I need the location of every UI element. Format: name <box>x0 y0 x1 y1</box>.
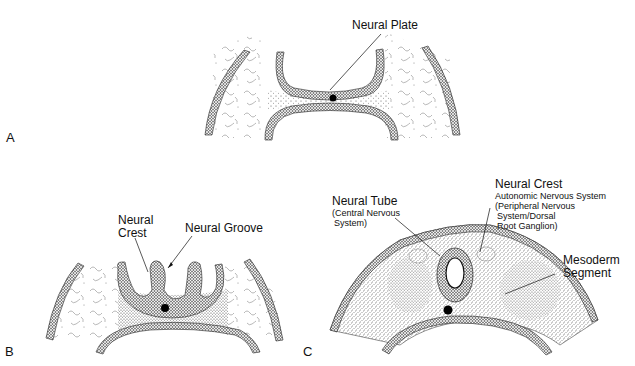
panel-c-drawing <box>330 208 598 355</box>
label-neural-crest-c-sub4: Root Ganglion) <box>497 222 558 231</box>
panel-b-drawing <box>46 236 283 354</box>
panel-c-letter: C <box>303 344 312 359</box>
neurulation-diagram: A B C Neural Plate Neural Crest Neural G… <box>0 0 635 366</box>
label-neural-tube: Neural Tube <box>332 195 397 208</box>
label-mesoderm-line2: Segment <box>563 267 611 280</box>
label-mesoderm-line1: Mesoderm <box>563 254 620 267</box>
label-neural-groove: Neural Groove <box>185 222 263 235</box>
panel-b-letter: B <box>5 344 14 359</box>
panel-a-drawing <box>205 32 460 140</box>
panel-a-letter: A <box>6 130 15 145</box>
label-neural-plate: Neural Plate <box>352 19 418 32</box>
label-neural-crest-c: Neural Crest <box>495 178 562 191</box>
label-neural-crest-b-line2: Crest <box>118 227 147 240</box>
label-neural-crest-b-line1: Neural <box>118 214 153 227</box>
label-neural-tube-sub2: System) <box>334 219 367 228</box>
